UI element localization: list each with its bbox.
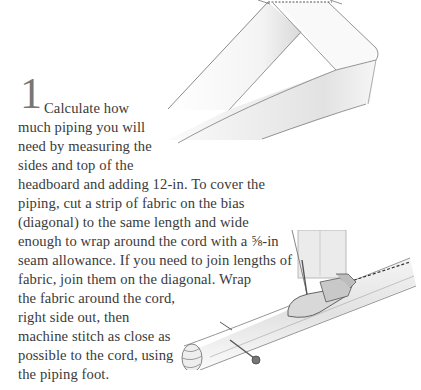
step-text-line: much piping you will (18, 118, 145, 137)
step-text-line: sides and top of the (18, 156, 134, 175)
step-text-line: the piping foot. (18, 365, 109, 384)
step-text-line: machine stitch as close as (18, 327, 171, 346)
step-text-line: right side out, then (18, 308, 129, 327)
step-text-line: Calculate how (44, 99, 129, 118)
step-text-line: possible to the cord, using (18, 346, 174, 365)
step-text-line: seam allowance. If you need to join leng… (18, 251, 292, 270)
step-text-line: the fabric around the cord, (18, 289, 175, 308)
step-text-line: (diagonal) to the same length and wide (18, 213, 249, 232)
step-text-line: need by measuring the (18, 137, 152, 156)
step-text-line: enough to wrap around the cord with a ⅝-… (18, 232, 279, 251)
step-text-line: fabric, join them on the diagonal. Wrap (18, 270, 251, 289)
step-number: 1 (20, 72, 42, 116)
bias-strip-illustration (160, 0, 390, 150)
step-text-line: headboard and adding 12-in. To cover the (18, 175, 265, 194)
step-text-line: piping, cut a strip of fabric on the bia… (18, 194, 245, 213)
instruction-page: 1 Calculate how much piping you will nee… (0, 0, 421, 390)
